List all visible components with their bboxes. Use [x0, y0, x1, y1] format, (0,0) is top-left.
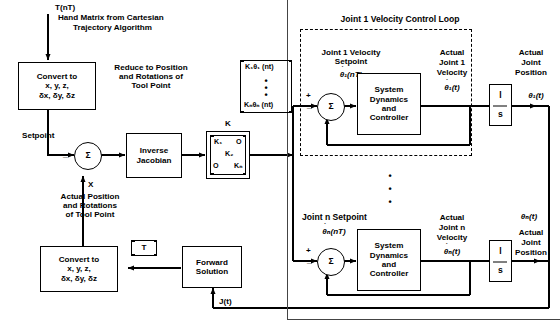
- jointn-actual-velocity-line2: Joint n: [428, 223, 476, 232]
- jointn-integrator-fraction-bar: [493, 261, 507, 263]
- forward-solution-block[interactable]: ForwardSolution: [182, 246, 242, 288]
- joint1-integrator-fraction-bar: [493, 105, 507, 107]
- k-matrix-r1c2: O: [236, 138, 242, 146]
- inverse-jacobian-block[interactable]: InverseJacobian: [126, 133, 182, 178]
- cartesian-error-summer[interactable]: Σ: [74, 142, 102, 170]
- control-system-block-diagram: T(nT) Hand Matrix from Cartesian Traject…: [0, 0, 560, 332]
- joint1-setpoint-label-line2: Setpoint: [305, 57, 397, 66]
- joint1-actual-velocity-line3: Velocity: [428, 68, 476, 77]
- k-matrix-r1c1: K₁: [214, 138, 222, 146]
- k-matrix-r3c1: O: [213, 162, 219, 170]
- k-matrix-r2-mid: K₂: [225, 150, 233, 158]
- reduce-to-position-note: Reduce to Positionand Rotations ofTool P…: [103, 63, 199, 90]
- joint1-actual-velocity-symbol: θ˙₁(t): [428, 83, 476, 92]
- setpoint-label: Setpoint: [22, 131, 54, 140]
- joint1-actual-velocity-line2: Joint 1: [428, 58, 476, 67]
- jointn-actual-position-symbol: θₙ(t): [505, 212, 553, 221]
- velocity-vector-ellipsis: •••: [240, 78, 292, 99]
- joint1-integrator-denominator: s: [489, 110, 512, 120]
- joint1-summer-plus-sign: +: [306, 91, 311, 100]
- jointn-setpoint-label: Joint n Setpoint: [302, 213, 367, 223]
- convert-to-cartesian-feedback-block[interactable]: Convert tox, y, z,δx, δy, δz: [40, 246, 118, 292]
- joint1-actual-velocity-line1: Actual: [428, 48, 476, 57]
- jointn-actual-position-line1: Actual: [505, 228, 557, 237]
- jointn-actual-velocity-line3: Velocity: [428, 233, 476, 242]
- velocity-vector-top-element: K₁θ₁ (nt): [245, 63, 274, 71]
- joint1-loop-title: Joint 1 Velocity Control Loop: [300, 15, 500, 25]
- jointn-integrator-denominator: s: [489, 266, 512, 276]
- joint1-velocity-summer[interactable]: Σ: [317, 93, 345, 121]
- joint1-actual-position-line3: Position: [505, 68, 557, 77]
- input-desc-line1: Hand Matrix from Cartesian: [58, 13, 164, 22]
- joint1-system-dynamics-block[interactable]: SystemDynamicsandController: [357, 73, 421, 135]
- jointn-summer-minus-sign: _: [307, 256, 312, 266]
- jointn-actual-velocity-line1: Actual: [428, 213, 476, 222]
- joint1-actual-position-symbol: θ₁(t): [516, 91, 556, 100]
- jointn-system-dynamics-block[interactable]: SystemDynamicsandController: [357, 229, 421, 291]
- joint1-summer-minus-sign: _: [307, 101, 312, 111]
- jointn-actual-velocity-symbol: θ˙ₙ(t): [428, 247, 476, 256]
- jointn-velocity-summer[interactable]: Σ: [317, 248, 345, 276]
- k-gain-label: K: [206, 119, 250, 128]
- jointn-actual-position-line2: Joint: [505, 238, 557, 247]
- joint1-integrator-numerator: l: [489, 91, 512, 101]
- joint1-setpoint-label-line1: Joint 1 Velocity: [305, 48, 397, 57]
- jointn-actual-position-line3: Position: [505, 248, 557, 257]
- input-desc-line2: Trajectory Algorithm: [73, 23, 152, 32]
- convert-to-cartesian-block[interactable]: Convert tox, y, z,δx, δy, δz: [18, 62, 96, 110]
- input-signal-label: T(nT): [55, 3, 75, 12]
- joint1-actual-position-line1: Actual: [505, 48, 557, 57]
- actual-position-note: Actual Positionand Rotationsof Tool Poin…: [45, 192, 135, 219]
- jointn-setpoint-symbol: θ˙ₙ(nT): [305, 227, 363, 236]
- joint-loops-ellipsis: •••: [375, 170, 405, 209]
- x-signal-label: X: [88, 180, 93, 189]
- t-matrix-label: T: [131, 243, 157, 252]
- jacobian-feedback-label: J(t): [219, 297, 232, 306]
- joint1-actual-position-line2: Joint: [505, 58, 557, 67]
- jointn-summer-plus-sign: +: [306, 246, 311, 255]
- velocity-vector-bottom-element: Kₙθₙ (nt): [244, 101, 273, 109]
- cartesian-summer-minus-sign: _: [63, 150, 68, 160]
- k-matrix-r3c2: Kₙ: [234, 162, 242, 170]
